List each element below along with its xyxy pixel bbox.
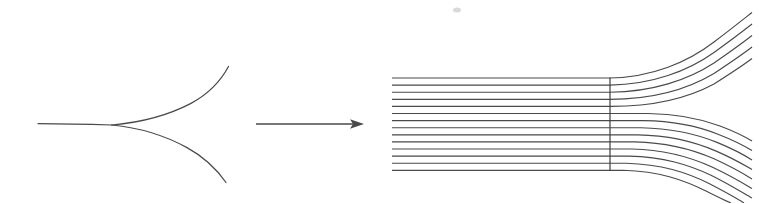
fold-leaf-up [392, 13, 752, 79]
foliation-panel [392, 13, 752, 204]
maps-to-arrow [256, 119, 364, 129]
cusp-tail-curve [38, 124, 112, 125]
cusp-lower-branch-curve [112, 125, 226, 183]
fold-leaves-up-group [392, 13, 752, 107]
fold-leaf-down [392, 163, 744, 203]
fold-leaf-down [392, 142, 752, 179]
cusp-panel [38, 67, 229, 183]
paper-speck [453, 8, 461, 13]
fold-leaf-down [392, 156, 752, 198]
cusp-upper-branch-curve [112, 67, 229, 126]
fold-leaf-down [392, 170, 731, 203]
fold-leaf-up [392, 24, 752, 85]
fold-leaves-down-group [392, 114, 752, 204]
fold-leaf-up [392, 36, 752, 93]
fold-leaf-down [392, 149, 752, 189]
figure-canvas [0, 0, 759, 203]
figure-root [0, 0, 759, 203]
